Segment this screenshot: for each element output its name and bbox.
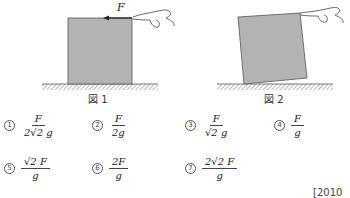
figure-2-caption: 図 2 [264, 91, 284, 106]
block-1 [68, 18, 132, 84]
option-number: 5 [4, 163, 15, 174]
option-6: 6 2Fg [92, 156, 128, 181]
force-label: F [116, 1, 125, 14]
figure-2-diagram [217, 7, 343, 90]
ground-2 [217, 84, 333, 90]
option-1: 1 F2√2 g [4, 113, 56, 138]
option-3: 3 F√2 g [185, 113, 230, 138]
hand-icon [133, 10, 174, 27]
figure-1-caption: 図 1 [88, 91, 108, 106]
option-number: 1 [4, 120, 15, 131]
option-number: 6 [92, 163, 103, 174]
block-2 [238, 13, 307, 84]
option-number: 4 [274, 120, 285, 131]
option-4: 4 Fg [274, 113, 304, 138]
figures: F [0, 0, 350, 110]
option-number: 3 [185, 120, 196, 131]
option-number: 7 [185, 163, 196, 174]
option-number: 2 [92, 120, 103, 131]
option-7: 7 2√2 Fg [185, 156, 237, 181]
source-citation: [2010 年 [313, 187, 350, 198]
option-5: 5 √2 Fg [4, 156, 50, 181]
ground-1 [42, 84, 158, 90]
hand-icon [300, 7, 343, 23]
figure-1-diagram: F [42, 1, 174, 90]
option-2: 2 F2g [92, 113, 128, 138]
